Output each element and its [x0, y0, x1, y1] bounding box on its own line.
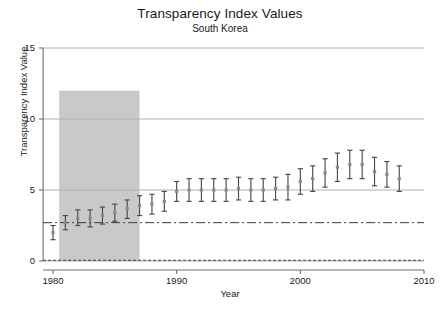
data-point-marker	[237, 187, 240, 190]
data-point-marker	[373, 170, 376, 173]
data-point-marker	[361, 163, 364, 166]
data-point-marker	[150, 203, 153, 206]
y-tick-label-5: 5	[9, 184, 35, 195]
x-tick-label-2010: 2010	[404, 275, 440, 286]
data-point-marker	[113, 211, 116, 214]
y-tick-label-10: 10	[9, 113, 35, 124]
data-point-marker	[348, 163, 351, 166]
plot-area	[0, 0, 440, 309]
data-point-marker	[89, 217, 92, 220]
data-point-marker	[163, 200, 166, 203]
data-point-marker	[200, 188, 203, 191]
shaded-region-group	[59, 91, 139, 261]
data-point-marker	[274, 187, 277, 190]
data-point-marker	[225, 188, 228, 191]
data-point-marker	[398, 177, 401, 180]
data-point-marker	[249, 188, 252, 191]
x-tick-label-1980: 1980	[33, 275, 73, 286]
data-point-marker	[311, 177, 314, 180]
data-point-marker	[101, 214, 104, 217]
y-tick-label-15: 15	[9, 42, 35, 53]
data-point-marker	[286, 186, 289, 189]
data-point-marker	[64, 221, 67, 224]
data-point-marker	[187, 188, 190, 191]
data-point-marker	[323, 171, 326, 174]
x-tick-label-2000: 2000	[280, 275, 320, 286]
chart-container: Transparency Index Values South Korea Tr…	[0, 0, 440, 309]
data-point-marker	[175, 190, 178, 193]
data-point-marker	[299, 180, 302, 183]
shaded-period-band	[59, 91, 139, 261]
data-point-marker	[212, 188, 215, 191]
data-point-marker	[138, 204, 141, 207]
data-point-marker	[126, 207, 129, 210]
data-point-marker	[262, 188, 265, 191]
x-tick-label-1990: 1990	[157, 275, 197, 286]
data-point-marker	[76, 217, 79, 220]
y-tick-label-0: 0	[9, 255, 35, 266]
data-point-marker	[385, 173, 388, 176]
data-point-marker	[336, 166, 339, 169]
data-point-marker	[51, 231, 54, 234]
